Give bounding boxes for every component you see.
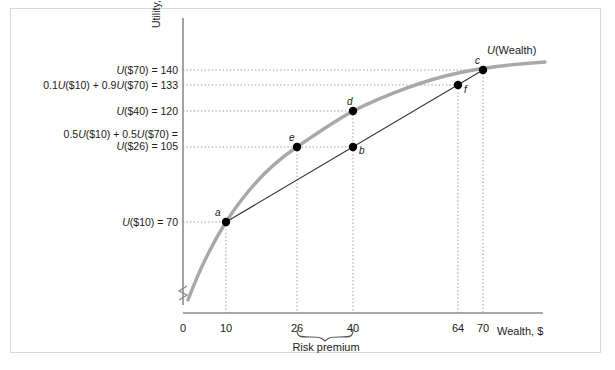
- horizontal-gridlines: [183, 70, 483, 222]
- risk-premium-label: Risk premium: [268, 341, 384, 353]
- figure-page: Utility, U U($70) = 140 0.1U($10) + 0.9U…: [0, 0, 615, 370]
- y-axis-title-text: Utility,: [150, 0, 162, 28]
- point-label-d: d: [347, 96, 353, 107]
- point-f: [454, 81, 462, 89]
- x-tick-label-10: 10: [208, 322, 244, 334]
- y-tick-label-133: 0.1U($10) + 0.9U($70) = 133: [20, 79, 178, 91]
- point-label-f: f: [464, 84, 467, 95]
- y-tick-label-140: U($70) = 140: [30, 64, 178, 76]
- data-points: [222, 66, 487, 226]
- y-tick-label-105: 0.5U($10) + 0.5U($70) =U($26) = 105: [20, 128, 178, 152]
- point-label-e: e: [289, 132, 295, 143]
- x-tick-label-0: 0: [165, 322, 201, 334]
- point-c: [479, 66, 487, 74]
- utility-curve: [188, 62, 545, 300]
- point-d: [349, 107, 357, 115]
- point-b: [349, 143, 357, 151]
- y-tick-label-70: U($10) = 70: [30, 216, 178, 228]
- curve-label-rest: (Wealth): [495, 44, 536, 56]
- x-tick-label-70: 70: [465, 322, 501, 334]
- x-tick-label-26: 26: [279, 322, 315, 334]
- point-e: [293, 143, 301, 151]
- y-axis-break-icon: [179, 286, 187, 300]
- x-axis-title: Wealth, $: [497, 325, 543, 337]
- point-a: [222, 218, 230, 226]
- x-tick-label-40: 40: [335, 322, 371, 334]
- point-label-a: a: [215, 207, 221, 218]
- y-axis-title: Utility, U: [150, 0, 162, 28]
- y-tick-label-120: U($40) = 120: [30, 105, 178, 117]
- curve-label-symbol: U: [487, 44, 495, 56]
- point-label-c: c: [475, 55, 480, 66]
- vertical-gridlines: [226, 70, 483, 313]
- curve-label-u-wealth: U(Wealth): [487, 44, 536, 56]
- point-label-b: b: [359, 145, 365, 156]
